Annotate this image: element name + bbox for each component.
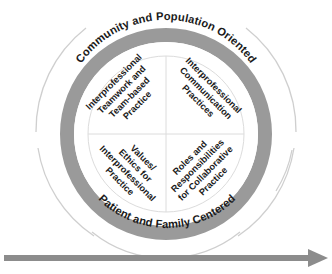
interprofessional-competency-diagram: Community and Population Oriented Patien… bbox=[0, 0, 332, 274]
progress-arrow-shaft bbox=[4, 255, 310, 261]
diagram-canvas: Community and Population Oriented Patien… bbox=[0, 0, 332, 274]
outer-arc-right-lower-inner bbox=[276, 150, 292, 191]
progress-arrow-head bbox=[308, 249, 328, 267]
progress-arrow bbox=[4, 249, 328, 267]
